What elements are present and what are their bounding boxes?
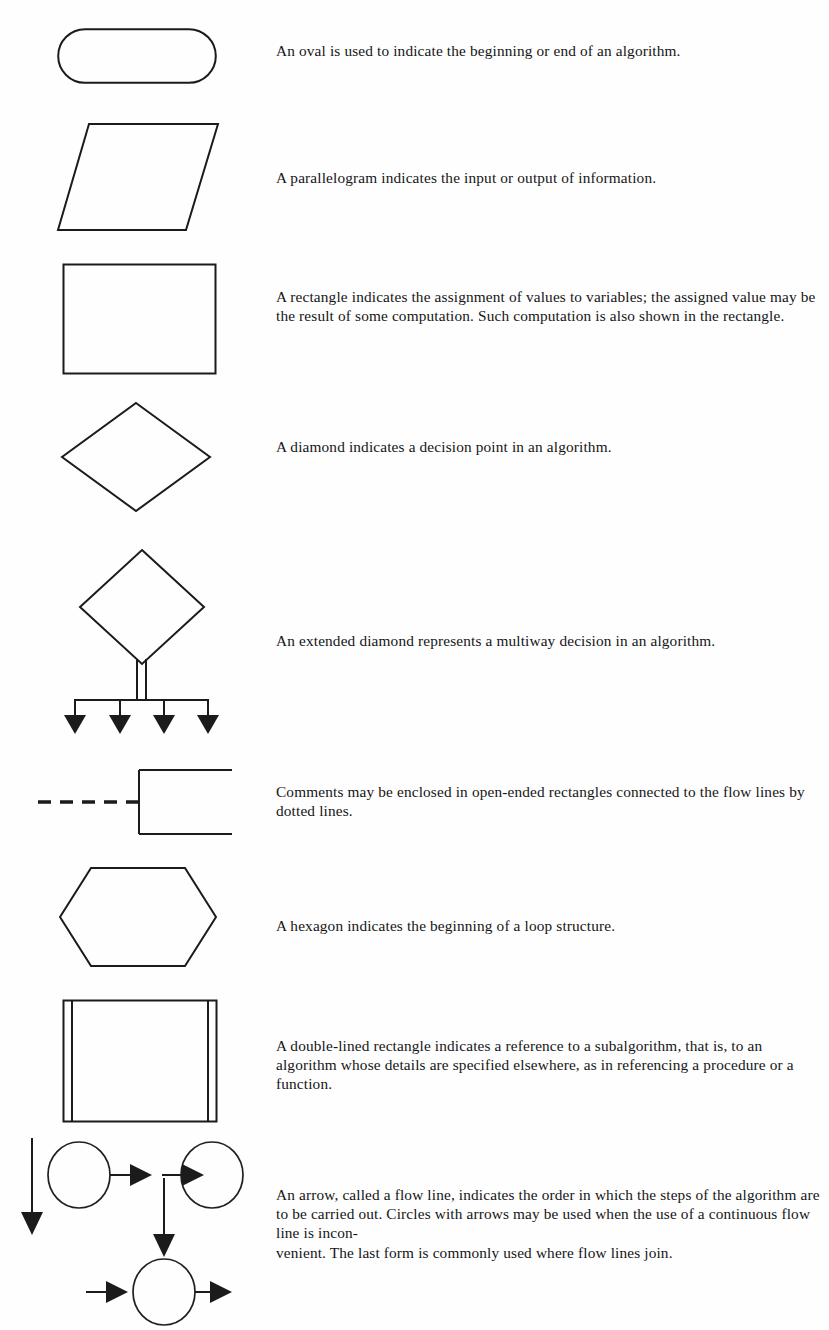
symbol-row-comment: Comments may be enclosed in open-ended r… <box>0 760 829 850</box>
oval-description: An oval is used to indicate the beginnin… <box>276 41 821 60</box>
symbol-row-double-lined-rectangle: A double-lined rectangle indicates a ref… <box>0 995 829 1130</box>
hexagon-shape <box>58 866 218 968</box>
comment-description: Comments may be enclosed in open-ended r… <box>276 782 821 820</box>
symbol-row-flow-line: An arrow, called a flow line, indicates … <box>0 1118 829 1318</box>
flow-line-description: An arrow, called a flow line, indicates … <box>276 1185 821 1262</box>
flowchart-symbols-page: An oval is used to indicate the beginnin… <box>0 0 829 1330</box>
oval-shape <box>57 28 217 84</box>
symbol-row-rectangle: A rectangle indicates the assignment of … <box>0 258 829 383</box>
double-lined-rectangle-description: A double-lined rectangle indicates a ref… <box>276 1036 821 1094</box>
flow-line-arrows-shape <box>14 1120 244 1318</box>
symbol-row-diamond: A diamond indicates a decision point in … <box>0 395 829 515</box>
symbol-row-parallelogram: A parallelogram indicates the input or o… <box>0 118 829 238</box>
extended-diamond-description: An extended diamond represents a multiwa… <box>276 631 821 650</box>
rectangle-shape <box>62 263 217 375</box>
symbol-row-extended-diamond: An extended diamond represents a multiwa… <box>0 545 829 740</box>
diamond-shape <box>60 401 212 513</box>
diamond-description: A diamond indicates a decision point in … <box>276 437 821 456</box>
hexagon-description: A hexagon indicates the beginning of a l… <box>276 916 821 935</box>
parallelogram-description: A parallelogram indicates the input or o… <box>276 168 821 187</box>
parallelogram-shape <box>56 122 221 232</box>
extended-diamond-shape <box>52 545 232 735</box>
open-ended-rectangle-shape <box>34 766 234 838</box>
double-lined-rectangle-shape <box>62 999 218 1123</box>
symbol-row-hexagon: A hexagon indicates the beginning of a l… <box>0 862 829 972</box>
symbol-row-oval: An oval is used to indicate the beginnin… <box>0 0 829 110</box>
rectangle-description: A rectangle indicates the assignment of … <box>276 287 821 325</box>
